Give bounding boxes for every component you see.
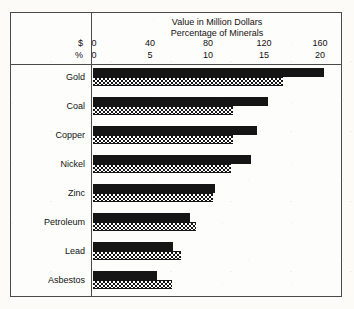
bar-row: Gold (11, 67, 341, 90)
percent-bar-coal (93, 106, 233, 115)
percent-tick-0: 0 (79, 50, 109, 60)
bar-row: Zinc (11, 183, 341, 206)
percent-bar-lead (93, 251, 181, 260)
bar-pair (93, 154, 343, 177)
percent-bar-zinc (93, 193, 213, 202)
chart-page: Value in Million Dollars Percentage of M… (0, 0, 354, 309)
category-label-copper: Copper (15, 130, 89, 140)
category-label-lead: Lead (15, 246, 89, 256)
chart-title: Value in Million Dollars (91, 17, 343, 28)
bar-row: Copper (11, 125, 341, 148)
plot-area: GoldCoalCopperNickelZincPetroleumLeadAsb… (11, 64, 341, 296)
percent-tick-15: 15 (249, 50, 279, 60)
percent-tick-20: 20 (305, 50, 335, 60)
bar-pair (93, 125, 343, 148)
percent-bar-petroleum (93, 222, 196, 231)
chart-title-block: Value in Million Dollars Percentage of M… (91, 17, 343, 39)
value-bar-gold (93, 68, 324, 77)
category-label-nickel: Nickel (15, 159, 89, 169)
label-column-divider-upper (91, 13, 92, 64)
bar-pair (93, 241, 343, 264)
category-label-petroleum: Petroleum (15, 217, 89, 227)
bar-pair (93, 270, 343, 293)
dollar-axis-row: $ 0 40 80 120 160 (11, 38, 343, 50)
bar-pair (93, 96, 343, 119)
dollar-tick-160: 160 (305, 38, 335, 48)
percent-bar-nickel (93, 164, 231, 173)
bar-row: Nickel (11, 154, 341, 177)
bar-pair (93, 67, 343, 90)
bar-pair (93, 183, 343, 206)
bar-row: Lead (11, 241, 341, 264)
percent-tick-10: 10 (193, 50, 223, 60)
value-bar-copper (93, 126, 257, 135)
dollar-tick-0: 0 (79, 38, 109, 48)
category-label-coal: Coal (15, 101, 89, 111)
value-bar-zinc (93, 184, 215, 193)
category-label-zinc: Zinc (15, 188, 89, 198)
axis-scales: $ 0 40 80 120 160 % 0 5 10 15 20 (11, 38, 343, 64)
percent-bar-copper (93, 135, 233, 144)
bar-row: Coal (11, 96, 341, 119)
value-bar-coal (93, 97, 268, 106)
bar-pair (93, 212, 343, 235)
bar-row: Petroleum (11, 212, 341, 235)
percent-bar-asbestos (93, 280, 172, 289)
category-label-gold: Gold (15, 72, 89, 82)
percent-axis-row: % 0 5 10 15 20 (11, 50, 343, 62)
dollar-tick-40: 40 (135, 38, 165, 48)
value-bar-lead (93, 242, 173, 251)
bar-row: Asbestos (11, 270, 341, 293)
percent-bar-gold (93, 77, 283, 86)
value-bar-asbestos (93, 271, 157, 280)
chart-frame: Value in Million Dollars Percentage of M… (10, 12, 342, 297)
category-label-asbestos: Asbestos (15, 275, 89, 285)
value-bar-petroleum (93, 213, 190, 222)
dollar-tick-80: 80 (193, 38, 223, 48)
percent-tick-5: 5 (135, 50, 165, 60)
dollar-tick-120: 120 (249, 38, 279, 48)
value-bar-nickel (93, 155, 251, 164)
